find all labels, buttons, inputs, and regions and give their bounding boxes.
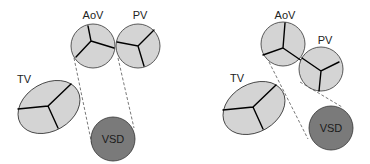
aortic-valve <box>261 22 305 66</box>
vsd-label: VSD <box>102 133 125 145</box>
projection-line <box>118 58 134 128</box>
vsd-defect: VSD <box>91 117 135 161</box>
valve-vsd-diagram: .valve { fill: #d4d4d4; stroke: #333; st… <box>0 0 370 164</box>
aortic-valve <box>71 24 115 68</box>
pv-label: PV <box>318 34 333 46</box>
panel-right: VSD AoV PV TV <box>213 9 353 150</box>
pv-label: PV <box>133 9 148 21</box>
aov-label: AoV <box>275 9 296 21</box>
aov-label: AoV <box>83 9 104 21</box>
vsd-label: VSD <box>320 122 343 134</box>
vsd-defect: VSD <box>309 106 353 150</box>
panel-left: VSD AoV PV TV <box>8 9 160 161</box>
pulmonary-valve <box>116 24 160 68</box>
tv-label: TV <box>230 72 245 84</box>
pulmonary-valve <box>299 47 343 91</box>
tricuspid-valve <box>213 71 294 146</box>
tv-label: TV <box>17 73 32 85</box>
